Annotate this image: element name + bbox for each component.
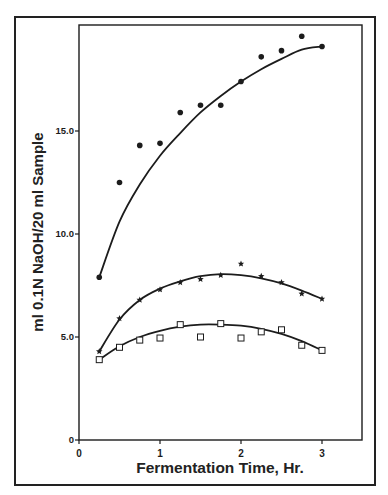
- data-point-circle: [319, 44, 325, 50]
- data-point-square: [157, 335, 163, 341]
- data-point-circle: [299, 33, 305, 39]
- data-point-square: [299, 342, 305, 348]
- chart-plot: 012305.010.015.0: [0, 0, 388, 495]
- data-point-circle: [117, 180, 123, 186]
- y-tick-label: 15.0: [56, 125, 75, 136]
- data-point-circle: [137, 143, 143, 149]
- data-point-square: [96, 357, 102, 363]
- x-tick-label: 1: [157, 448, 163, 459]
- y-tick-label: 0: [69, 434, 74, 445]
- fit-curve: [99, 324, 322, 359]
- data-point-square: [218, 321, 224, 327]
- y-axis-title: ml 0.1N NaOH/20 ml Sample: [29, 132, 46, 331]
- data-point-square: [137, 337, 143, 343]
- y-tick-label: 5.0: [61, 331, 74, 342]
- data-point-square: [177, 322, 183, 328]
- data-point-star: [238, 260, 244, 266]
- x-tick-label: 3: [319, 448, 325, 459]
- data-point-star: [218, 272, 224, 278]
- data-point-circle: [157, 141, 163, 147]
- x-tick-label: 2: [238, 448, 244, 459]
- data-point-circle: [218, 102, 224, 108]
- data-point-circle: [258, 54, 264, 60]
- data-point-square: [198, 334, 204, 340]
- data-point-circle: [198, 102, 204, 108]
- data-point-circle: [177, 110, 183, 116]
- plot-area-border: [79, 25, 362, 440]
- data-point-square: [319, 347, 325, 353]
- data-point-square: [238, 335, 244, 341]
- data-point-star: [319, 295, 325, 301]
- x-tick-label: 0: [76, 448, 82, 459]
- data-point-circle: [279, 48, 285, 54]
- data-point-square: [117, 344, 123, 350]
- fit-curve: [99, 47, 322, 278]
- data-point-circle: [96, 274, 102, 280]
- data-point-square: [258, 329, 264, 335]
- data-point-square: [279, 327, 285, 333]
- x-axis-title: Fermentation Time, Hr.: [136, 459, 304, 477]
- y-tick-label: 10.0: [56, 228, 75, 239]
- data-point-circle: [238, 79, 244, 85]
